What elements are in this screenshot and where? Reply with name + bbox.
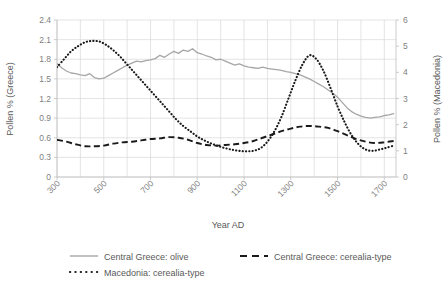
x-tick-label: 700	[138, 178, 155, 195]
y2-tick-label: 6	[403, 15, 408, 25]
x-tick-label: 900	[185, 178, 202, 195]
x-tick-label: 500	[92, 178, 109, 195]
x-tick-label: 1300	[275, 178, 296, 199]
y-axis-secondary-tick-labels: 0123456	[403, 15, 408, 182]
chart-canvas: 3005007009001100130015001700 00.30.60.91…	[0, 0, 448, 294]
legend-item-label: Central Greece: cerealia-type	[274, 252, 392, 262]
y2-tick-label: 5	[403, 41, 408, 51]
y-tick-label: 0.3	[39, 152, 51, 162]
y2-tick-label: 0	[403, 172, 408, 182]
legend-item[interactable]: Macedonia: cerealia-type	[70, 268, 205, 278]
y-tick-label: 1.8	[39, 54, 51, 64]
y-tick-label: 0.9	[39, 113, 51, 123]
x-tick-label: 1100	[229, 178, 249, 198]
legend-item[interactable]: Central Greece: cerealia-type	[240, 252, 392, 262]
y-tick-label: 1.5	[39, 74, 51, 84]
y-axis-primary-title: Pollen % (Greece)	[5, 62, 15, 136]
chart-legend: Central Greece: oliveCentral Greece: cer…	[70, 252, 392, 278]
data-series	[57, 41, 394, 151]
legend-item-label: Central Greece: olive	[104, 252, 189, 262]
x-tick-label: 1500	[322, 178, 343, 199]
y-axis-secondary-title: Pollen % (Macedonia)	[432, 55, 442, 143]
legend-item-label: Macedonia: cerealia-type	[104, 268, 205, 278]
y-tick-label: 0	[46, 172, 51, 182]
series-line-macedonia-cerealia	[57, 41, 394, 151]
y2-tick-label: 1	[403, 146, 408, 156]
y-tick-label: 2.1	[39, 35, 51, 45]
x-tick-label: 1700	[369, 178, 390, 199]
legend-item[interactable]: Central Greece: olive	[70, 252, 189, 262]
y-axis-primary-tick-labels: 00.30.60.91.21.51.82.12.4	[39, 15, 51, 182]
y2-tick-label: 4	[403, 67, 408, 77]
y-tick-label: 2.4	[39, 15, 51, 25]
x-axis-title: Year AD	[212, 220, 245, 230]
gridlines	[57, 20, 396, 177]
series-line-central-greece-cerealia	[57, 126, 394, 146]
pollen-percentage-chart: 3005007009001100130015001700 00.30.60.91…	[0, 0, 448, 294]
y-tick-label: 0.6	[39, 133, 51, 143]
y2-tick-label: 3	[403, 94, 408, 104]
x-axis-tick-labels: 3005007009001100130015001700	[45, 178, 390, 199]
y2-tick-label: 2	[403, 120, 408, 130]
y-tick-label: 1.2	[39, 94, 51, 104]
